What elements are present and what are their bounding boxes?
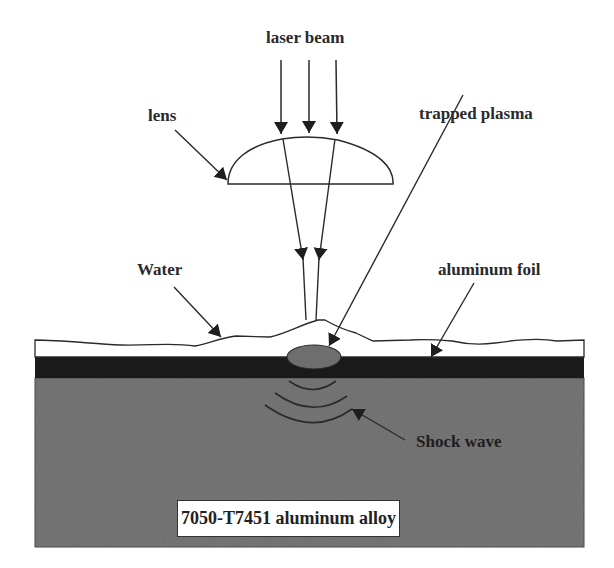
laser-shock-peening-diagram <box>0 0 614 568</box>
laser-beam-label: laser beam <box>266 29 345 46</box>
lens-label: lens <box>148 107 176 124</box>
shock-wave-label: Shock wave <box>416 433 501 450</box>
aluminum-foil-label: aluminum foil <box>438 261 541 278</box>
alloy-label-box: 7050-T7451 aluminum alloy <box>177 500 400 537</box>
water-label: Water <box>137 261 182 278</box>
water-pointer-arrow <box>174 287 221 337</box>
laser-beams-incoming <box>281 60 337 134</box>
alloy-label: 7050-T7451 aluminum alloy <box>181 508 396 529</box>
trapped-plasma <box>287 345 341 369</box>
lens-pointer-arrow <box>175 130 227 180</box>
lens <box>228 137 393 184</box>
plasma-pointer-arrow <box>329 95 463 346</box>
trapped-plasma-label: trapped plasma <box>419 105 533 122</box>
